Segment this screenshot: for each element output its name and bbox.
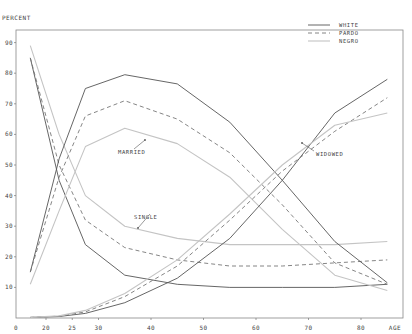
line-single-negro [30,46,387,245]
x-tick-label: 0 [14,324,18,331]
line-single-pardo [30,58,387,266]
data-lines [30,46,387,318]
y-tick-label: 10 [5,283,13,290]
annotation-married: MARRIED [118,149,145,155]
line-widowed-white [30,79,387,317]
x-tick-label: 25 [68,324,76,331]
y-tick-label: 90 [5,39,13,46]
chart: PERCENT102030405060708090 02025304050607… [0,0,412,334]
x-axis: 02025304050607080AGE [14,318,401,331]
annotation-widowed: WIDOWED [316,151,343,157]
legend: WHITEPARDONEGRO [308,22,359,44]
annotation-arrow-married [134,140,145,149]
y-tick-label: 20 [5,253,13,260]
annotation-arrow-widowed [302,143,314,151]
x-tick-label: 60 [252,324,260,331]
x-tick-label: 50 [199,324,207,331]
x-tick-label: 40 [147,324,155,331]
line-widowed-pardo [30,98,387,318]
legend-label-pardo: PARDO [339,30,359,36]
x-axis-title: AGE [389,324,401,331]
y-tick-label: 50 [5,161,13,168]
y-tick-label: 70 [5,100,13,107]
legend-label-negro: NEGRO [339,38,359,44]
line-widowed-negro [30,113,387,317]
x-tick-label: 70 [304,324,312,331]
annotations: MARRIEDSINGLEWIDOWED [118,139,343,229]
line-married-white [30,75,387,283]
y-axis-title: PERCENT [2,14,31,21]
y-tick-label: 30 [5,222,13,229]
y-tick-label: 40 [5,192,13,199]
arrowhead-icon [137,227,139,229]
x-tick-label: 20 [42,324,50,331]
x-tick-label: 30 [94,324,102,331]
arrowhead-icon [144,139,146,141]
y-tick-label: 80 [5,69,13,76]
legend-label-white: WHITE [339,22,359,28]
y-tick-label: 60 [5,130,13,137]
arrowhead-icon [301,142,303,144]
x-tick-label: 80 [357,324,365,331]
